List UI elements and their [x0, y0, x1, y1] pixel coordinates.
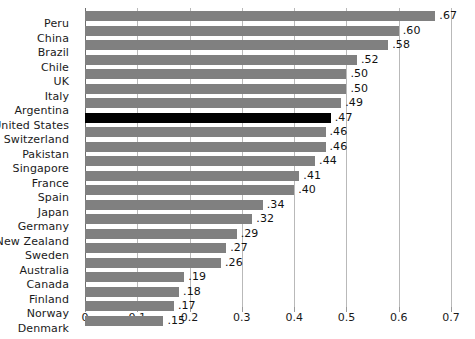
x-axis-tick-label: 0.6: [390, 311, 408, 324]
bar[interactable]: [85, 272, 184, 282]
bar-value-label: .46: [330, 140, 348, 153]
category-label-switzerland: Switzerland: [0, 133, 69, 146]
category-label-new-zealand: New Zealand: [0, 235, 69, 248]
category-label-italy: Italy: [0, 90, 69, 103]
bar-value-label: .19: [188, 270, 206, 283]
category-label-pakistan: Pakistan: [0, 148, 69, 161]
bar[interactable]: [85, 11, 435, 21]
bar-value-label: .58: [392, 38, 410, 51]
bar-value-label: .44: [319, 154, 337, 167]
category-label-norway: Norway: [0, 307, 69, 320]
x-axis-tick-label: 0.7: [442, 311, 460, 324]
bar[interactable]: [85, 316, 163, 326]
bar[interactable]: [85, 185, 294, 195]
category-label-finland: Finland: [0, 293, 69, 306]
bar-value-label: .27: [230, 241, 248, 254]
category-label-france: France: [0, 177, 69, 190]
bar-value-label: .46: [330, 125, 348, 138]
category-label-canada: Canada: [0, 278, 69, 291]
bar[interactable]: [85, 156, 315, 166]
bar[interactable]: [85, 258, 221, 268]
bar-value-label: .32: [256, 212, 274, 225]
bar-value-label: .41: [303, 169, 321, 182]
bar-value-label: .60: [403, 24, 421, 37]
x-axis-tick-label: 0.5: [338, 311, 356, 324]
bar[interactable]: [85, 26, 399, 36]
bar[interactable]: [85, 171, 299, 181]
category-label-united-states: United States: [0, 119, 69, 132]
bar-value-label: .26: [225, 256, 243, 269]
category-label-china: China: [0, 32, 69, 45]
category-label-argentina: Argentina: [0, 104, 69, 117]
bar[interactable]: [85, 229, 237, 239]
bar-value-label: .67: [439, 9, 457, 22]
bar-value-label: .15: [167, 314, 185, 327]
bar[interactable]: [85, 142, 326, 152]
bar[interactable]: [85, 301, 174, 311]
bar[interactable]: [85, 243, 226, 253]
bar-value-label: .34: [267, 198, 285, 211]
bar[interactable]: [85, 287, 179, 297]
bar-value-label: .47: [335, 111, 353, 124]
x-axis-tick-label: 0.4: [285, 311, 303, 324]
category-label-sweden: Sweden: [0, 249, 69, 262]
bar[interactable]: [85, 98, 341, 108]
bar-chart: PeruChinaBrazilChileUKItalyArgentinaUnit…: [0, 0, 475, 339]
category-label-brazil: Brazil: [0, 46, 69, 59]
bar-value-label: .40: [298, 183, 316, 196]
bar-value-label: .29: [241, 227, 259, 240]
bar[interactable]: [85, 127, 326, 137]
bar[interactable]: [85, 40, 388, 50]
bar[interactable]: [85, 200, 263, 210]
category-label-chile: Chile: [0, 61, 69, 74]
bar-highlighted[interactable]: [85, 113, 331, 123]
category-label-australia: Australia: [0, 264, 69, 277]
category-label-spain: Spain: [0, 191, 69, 204]
bar[interactable]: [85, 55, 357, 65]
plot-area: PeruChinaBrazilChileUKItalyArgentinaUnit…: [85, 8, 451, 307]
category-label-singapore: Singapore: [0, 162, 69, 175]
bar-value-label: .50: [350, 82, 368, 95]
bar-value-label: .49: [345, 96, 363, 109]
bar-value-label: .18: [183, 285, 201, 298]
gridline: [451, 8, 452, 307]
x-axis-tick-label: 0.3: [233, 311, 251, 324]
bar[interactable]: [85, 214, 252, 224]
gridline: [346, 8, 347, 307]
category-label-japan: Japan: [0, 206, 69, 219]
gridline: [399, 8, 400, 307]
category-label-peru: Peru: [0, 17, 69, 30]
category-label-denmark: Denmark: [0, 322, 69, 335]
bar-value-label: .52: [361, 53, 379, 66]
category-axis-labels: PeruChinaBrazilChileUKItalyArgentinaUnit…: [0, 16, 69, 315]
bar-value-label: .17: [178, 299, 196, 312]
bar[interactable]: [85, 69, 346, 79]
category-label-uk: UK: [0, 75, 69, 88]
bar[interactable]: [85, 84, 346, 94]
bar-value-label: .50: [350, 67, 368, 80]
category-label-germany: Germany: [0, 220, 69, 233]
